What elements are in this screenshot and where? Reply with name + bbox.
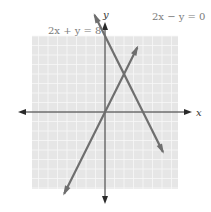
y-axis-label: y bbox=[102, 9, 109, 20]
y-axis-top-arrow bbox=[102, 22, 108, 30]
x-axis-label: x bbox=[196, 107, 202, 118]
x-axis-left-arrow bbox=[18, 109, 26, 115]
y-axis-bottom-arrow bbox=[102, 196, 108, 204]
series-arrow-0-0 bbox=[94, 13, 101, 23]
series-label-2x-minus-y-eq-0: 2x − y = 0 bbox=[152, 11, 206, 22]
x-axis-right-arrow bbox=[184, 109, 192, 115]
series-label-2x-plus-y-eq-8: 2x + y = 8 bbox=[48, 25, 102, 36]
chart: x y 2x + y = 8 2x − y = 0 bbox=[0, 0, 211, 212]
